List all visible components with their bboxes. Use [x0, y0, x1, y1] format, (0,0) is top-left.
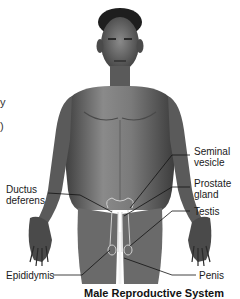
- figure-caption: Male Reproductive System: [84, 287, 224, 299]
- label-testis: Testis: [194, 206, 220, 217]
- label-ductus-deferens: Ductus deferens: [6, 184, 45, 206]
- label-prostate-gland: Prostate gland: [194, 178, 231, 200]
- cropped-text-fragment: ): [0, 120, 4, 132]
- label-seminal-vesicle: Seminal vesicle: [194, 146, 230, 168]
- label-epididymis: Epididymis: [6, 270, 54, 281]
- left-arm: [36, 96, 72, 226]
- label-penis: Penis: [199, 270, 224, 281]
- cropped-text-fragment: y: [0, 96, 6, 108]
- head: [101, 17, 139, 71]
- neck: [110, 66, 130, 88]
